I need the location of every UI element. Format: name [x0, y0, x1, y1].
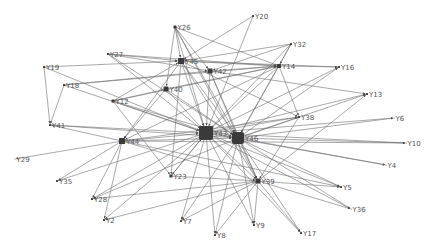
node-Y2[interactable]: Y2: [103, 217, 115, 225]
node-label: Y45: [184, 58, 198, 66]
node-Y20[interactable]: Y20: [252, 13, 268, 21]
node-Y41[interactable]: Y41: [49, 122, 65, 130]
edge-Y44-Y28: [93, 141, 122, 198]
edge-Y26-Y43: [175, 27, 204, 126]
node-marker: [256, 179, 261, 184]
edge-Y19-Y41: [44, 67, 50, 124]
node-Y45[interactable]: Y45: [178, 58, 198, 66]
node-marker: [174, 26, 177, 29]
node-Y40[interactable]: Y40: [164, 86, 183, 94]
edge-Y39-Y13: [258, 95, 366, 181]
edge-Y38-Y39: [260, 117, 299, 178]
node-label: Y10: [407, 140, 421, 148]
edge-Y12-Y23: [113, 101, 170, 174]
node-label: Y4: [387, 162, 397, 170]
node-label: Y23: [173, 173, 187, 181]
edge-Y46-Y5: [238, 138, 340, 186]
node-marker: [43, 66, 45, 68]
node-label: Y35: [58, 178, 72, 186]
node-label: Y17: [302, 230, 316, 238]
node-Y4[interactable]: Y4: [386, 162, 397, 170]
edge-Y39-Y9: [254, 181, 258, 224]
edge-Y44-Y29: [16, 141, 122, 159]
node-Y32[interactable]: Y32: [290, 41, 306, 49]
node-Y16[interactable]: Y16: [338, 64, 355, 72]
node-marker: [338, 66, 340, 68]
edge-Y46-Y28: [93, 138, 238, 198]
node-label: Y18: [65, 82, 79, 90]
node-Y35[interactable]: Y35: [56, 178, 72, 186]
node-Y5[interactable]: Y5: [340, 184, 352, 192]
edge-Y40-Y44: [124, 89, 166, 138]
node-label: Y46: [244, 135, 259, 143]
node-label: Y27: [109, 51, 123, 59]
node-marker: [214, 234, 216, 236]
node-label: Y13: [368, 91, 382, 99]
node-Y27[interactable]: Y27: [107, 51, 123, 59]
edge-Y32-Y45: [184, 44, 291, 60]
node-label: Y12: [115, 98, 129, 106]
node-marker: [103, 219, 105, 221]
node-Y38[interactable]: Y38: [298, 114, 314, 122]
node-marker: [252, 15, 254, 17]
node-Y39[interactable]: Y39: [256, 178, 275, 186]
edge-Y42-Y13: [210, 71, 366, 94]
node-marker: [406, 143, 407, 144]
node-marker: [298, 116, 300, 118]
node-marker: [232, 132, 244, 144]
node-label: Y16: [340, 64, 355, 72]
node-Y14[interactable]: Y14: [277, 63, 296, 71]
node-marker: [49, 124, 51, 126]
edge-Y27-Y46: [108, 54, 233, 134]
edge-Y39-Y2: [105, 181, 258, 220]
network-graph: Y26Y20Y32Y27Y45Y42Y14Y16Y19Y18Y40Y12Y13Y…: [0, 0, 429, 250]
node-marker: [15, 159, 16, 160]
node-marker: [253, 224, 255, 226]
node-Y18[interactable]: Y18: [63, 82, 79, 90]
node-Y8[interactable]: Y8: [214, 232, 226, 240]
node-Y28[interactable]: Y28: [91, 196, 107, 204]
node-marker: [91, 198, 93, 200]
edge-layer: [16, 16, 405, 234]
node-label: Y39: [261, 178, 275, 186]
node-label: Y9: [255, 222, 265, 230]
node-marker: [119, 138, 125, 144]
node-label: Y43: [213, 130, 227, 138]
edge-Y41-Y43: [50, 125, 199, 133]
edge-Y14-Y38: [279, 66, 298, 116]
node-Y23[interactable]: Y23: [170, 173, 187, 181]
node-label: Y14: [281, 63, 296, 71]
node-marker: [56, 180, 58, 182]
node-Y19[interactable]: Y19: [43, 64, 59, 72]
node-Y44[interactable]: Y44: [119, 138, 140, 146]
node-label: Y20: [254, 13, 268, 21]
node-Y9[interactable]: Y9: [253, 222, 265, 230]
node-label: Y8: [216, 232, 226, 240]
node-label: Y44: [125, 138, 140, 146]
node-label: Y5: [342, 184, 352, 192]
node-marker: [180, 220, 182, 222]
node-marker: [366, 93, 368, 95]
node-Y13[interactable]: Y13: [366, 91, 382, 99]
node-label: Y7: [182, 218, 192, 226]
node-Y29[interactable]: Y29: [15, 156, 30, 164]
edge-Y46-Y7: [182, 138, 238, 220]
node-label: Y6: [395, 115, 405, 123]
edge-Y43-Y13: [206, 94, 366, 133]
node-marker: [386, 165, 387, 166]
node-label: Y19: [45, 64, 59, 72]
node-label: Y32: [292, 41, 306, 49]
edge-Y42-Y43: [206, 71, 210, 126]
edge-Y43-Y36: [206, 133, 350, 209]
node-marker: [351, 209, 352, 210]
node-label: Y42: [213, 68, 227, 76]
node-Y10[interactable]: Y10: [406, 140, 421, 148]
node-label: Y41: [51, 122, 65, 130]
node-marker: [170, 175, 173, 178]
node-Y6[interactable]: Y6: [394, 115, 405, 123]
node-Y12[interactable]: Y12: [112, 98, 129, 106]
node-Y36[interactable]: Y36: [351, 206, 367, 214]
node-Y46[interactable]: Y46: [232, 132, 259, 144]
node-marker: [208, 69, 213, 74]
node-Y17[interactable]: Y17: [300, 230, 316, 238]
